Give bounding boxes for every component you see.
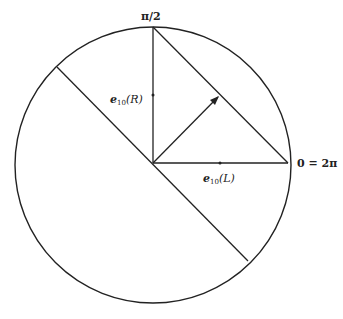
arrow-shaft (153, 97, 218, 163)
label-pi-half: π/2 (141, 10, 161, 23)
diagram-canvas: π/2 0 = 2π e10(R) e10(L) (0, 0, 343, 319)
label-e10-L: e10(L) (203, 172, 235, 186)
edge-e10-L-midpoint (219, 162, 222, 165)
label-zero-two-pi: 0 = 2π (297, 157, 337, 170)
label-e10-R: e10(R) (110, 93, 143, 107)
edge-e10-R-midpoint (152, 94, 155, 97)
